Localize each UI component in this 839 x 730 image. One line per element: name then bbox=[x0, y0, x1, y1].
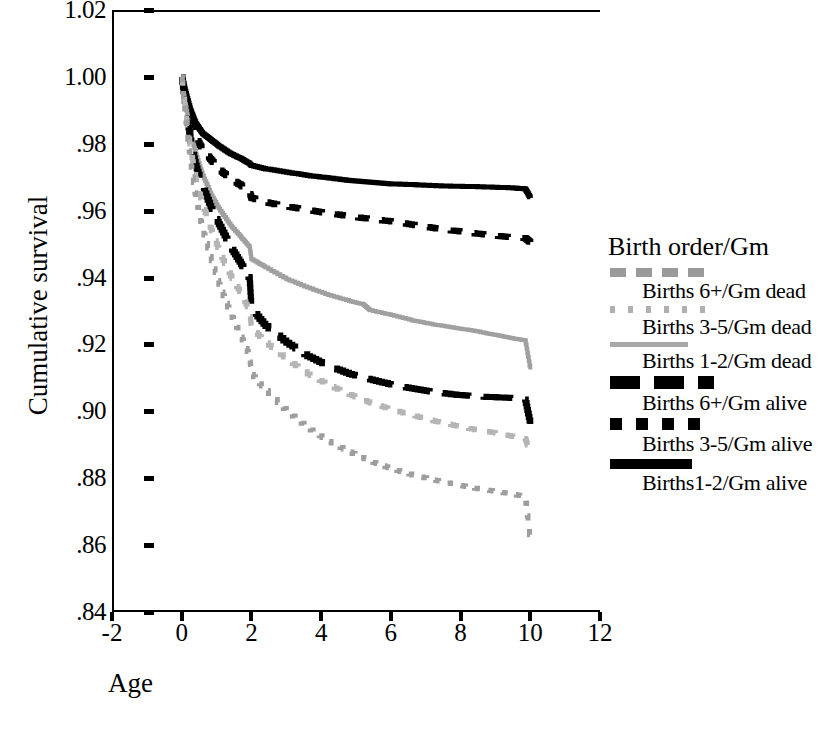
x-tick-mark bbox=[180, 612, 184, 621]
legend-entry: Births 3-5/Gm dead bbox=[608, 306, 839, 340]
legend-label: Births 1-2/Gm dead bbox=[608, 348, 839, 374]
x-tick-mark bbox=[110, 612, 114, 621]
legend-entry: Births 6+/Gm dead bbox=[608, 268, 839, 304]
survival-chart-figure: 1.021.00.98.96.94.92.90.88.86.84 -202468… bbox=[0, 0, 839, 730]
x-tick-label: 4 bbox=[299, 620, 343, 645]
x-tick-mark bbox=[389, 612, 393, 621]
legend-entries: Births 6+/Gm deadBirths 3-5/Gm deadBirth… bbox=[608, 268, 839, 496]
x-tick-mark bbox=[249, 612, 253, 621]
legend-label: Births1-2/Gm alive bbox=[608, 470, 839, 496]
legend-swatch bbox=[610, 306, 714, 313]
x-tick-label: 8 bbox=[439, 620, 483, 645]
legend-label: Births 6+/Gm dead bbox=[608, 278, 839, 304]
x-tick-mark bbox=[319, 612, 323, 621]
x-tick-mark bbox=[598, 612, 602, 621]
legend-swatch bbox=[610, 376, 714, 389]
x-tick-label: 6 bbox=[369, 620, 413, 645]
legend-swatch bbox=[610, 418, 714, 430]
x-tick-mark bbox=[528, 612, 532, 621]
legend-label: Births 3-5/Gm alive bbox=[608, 431, 839, 457]
legend: Birth order/Gm Births 6+/Gm deadBirths 3… bbox=[608, 232, 839, 498]
legend-swatch bbox=[610, 459, 692, 469]
legend-label: Births 3-5/Gm dead bbox=[608, 314, 839, 340]
legend-entry: Births 3-5/Gm alive bbox=[608, 418, 839, 457]
x-tick-label: 10 bbox=[508, 620, 552, 645]
x-tick-label: 2 bbox=[229, 620, 273, 645]
x-tick-label: 0 bbox=[160, 620, 204, 645]
y-axis-title: Cumulative survival bbox=[23, 156, 54, 456]
legend-label: Births 6+/Gm alive bbox=[608, 390, 839, 416]
legend-swatch bbox=[610, 342, 688, 347]
legend-title: Birth order/Gm bbox=[608, 232, 839, 262]
legend-swatch bbox=[610, 268, 714, 277]
legend-entry: Births 1-2/Gm dead bbox=[608, 342, 839, 374]
x-tick-label: 12 bbox=[578, 620, 622, 645]
x-tick-mark bbox=[459, 612, 463, 621]
x-axis-title: Age bbox=[108, 668, 153, 699]
legend-entry: Births 6+/Gm alive bbox=[608, 376, 839, 416]
x-tick-label: -2 bbox=[90, 620, 134, 645]
legend-entry: Births1-2/Gm alive bbox=[608, 459, 839, 496]
